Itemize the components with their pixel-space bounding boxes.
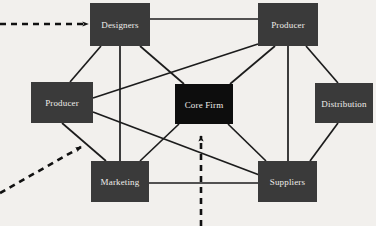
node-marketing[interactable]: Marketing (91, 161, 149, 202)
edge-core-firm-to-suppliers (228, 124, 266, 161)
inbound-arrow-bottom-left (0, 147, 81, 193)
node-designers[interactable]: Designers (90, 3, 150, 46)
node-label-core-firm: Core Firm (185, 100, 224, 109)
edge-producer-top-to-distribution (306, 46, 338, 83)
node-producer-left[interactable]: Producer (31, 82, 93, 123)
node-label-designers: Designers (101, 21, 138, 30)
node-producer-top[interactable]: Producer (258, 3, 318, 46)
node-label-distribution: Distribution (321, 99, 366, 108)
edge-distribution-to-suppliers (310, 123, 338, 161)
node-label-producer-top: Producer (271, 21, 305, 30)
node-label-suppliers: Suppliers (270, 178, 305, 187)
node-distribution[interactable]: Distribution (315, 83, 373, 123)
node-label-producer-left: Producer (45, 99, 79, 108)
node-label-marketing: Marketing (101, 178, 140, 187)
network-diagram-canvas: DesignersProducerProducerCore FirmDistri… (0, 0, 376, 226)
edge-designers-to-producer-left (70, 46, 101, 82)
node-suppliers[interactable]: Suppliers (258, 161, 317, 202)
edge-designers-to-core-firm (140, 46, 184, 84)
node-core-firm[interactable]: Core Firm (175, 84, 233, 124)
